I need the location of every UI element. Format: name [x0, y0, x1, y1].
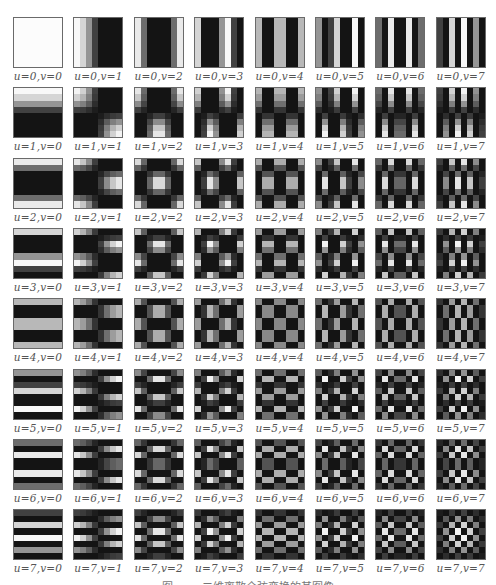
basis-image [315, 17, 365, 68]
basis-image [13, 17, 63, 68]
basis-image [375, 17, 425, 68]
basis-image [375, 298, 425, 349]
basis-image [194, 228, 244, 279]
basis-label: u=2,v=2 [129, 211, 189, 223]
basis-label: u=2,v=3 [189, 211, 249, 223]
basis-image [73, 228, 123, 279]
basis-label: u=7,v=7 [431, 562, 491, 574]
basis-label: u=6,v=6 [370, 492, 430, 504]
basis-label: u=0,v=7 [431, 70, 491, 82]
basis-image [315, 439, 365, 490]
basis-image [13, 228, 63, 279]
basis-image [13, 439, 63, 490]
basis-image [73, 509, 123, 560]
basis-label: u=5,v=5 [310, 422, 370, 434]
basis-image [255, 439, 305, 490]
basis-label: u=1,v=6 [370, 140, 430, 152]
basis-label: u=6,v=1 [68, 492, 128, 504]
basis-image [13, 298, 63, 349]
basis-label: u=3,v=0 [8, 281, 68, 293]
basis-label: u=4,v=4 [250, 351, 310, 363]
basis-image [13, 87, 63, 138]
basis-image [436, 158, 486, 209]
basis-image [134, 439, 184, 490]
basis-label: u=1,v=2 [129, 140, 189, 152]
basis-image [134, 369, 184, 420]
basis-image [194, 17, 244, 68]
basis-image [436, 298, 486, 349]
basis-label: u=3,v=2 [129, 281, 189, 293]
basis-label: u=3,v=7 [431, 281, 491, 293]
basis-image [375, 87, 425, 138]
basis-label: u=2,v=6 [370, 211, 430, 223]
basis-label: u=4,v=5 [310, 351, 370, 363]
basis-label: u=0,v=1 [68, 70, 128, 82]
basis-image [73, 158, 123, 209]
basis-label: u=6,v=4 [250, 492, 310, 504]
basis-image [375, 439, 425, 490]
basis-label: u=5,v=7 [431, 422, 491, 434]
basis-label: u=5,v=6 [370, 422, 430, 434]
basis-label: u=0,v=5 [310, 70, 370, 82]
basis-image [73, 298, 123, 349]
basis-label: u=5,v=0 [8, 422, 68, 434]
basis-label: u=5,v=4 [250, 422, 310, 434]
basis-label: u=1,v=7 [431, 140, 491, 152]
basis-image [134, 17, 184, 68]
basis-label: u=6,v=5 [310, 492, 370, 504]
basis-label: u=4,v=6 [370, 351, 430, 363]
basis-image [73, 439, 123, 490]
basis-label: u=7,v=1 [68, 562, 128, 574]
basis-label: u=4,v=1 [68, 351, 128, 363]
basis-label: u=3,v=4 [250, 281, 310, 293]
basis-image [375, 509, 425, 560]
basis-image [73, 369, 123, 420]
basis-label: u=6,v=2 [129, 492, 189, 504]
basis-label: u=5,v=2 [129, 422, 189, 434]
basis-image [255, 17, 305, 68]
basis-label: u=7,v=2 [129, 562, 189, 574]
basis-label: u=1,v=1 [68, 140, 128, 152]
basis-image [194, 369, 244, 420]
basis-image [194, 158, 244, 209]
basis-image [73, 87, 123, 138]
basis-image [134, 509, 184, 560]
basis-label: u=0,v=6 [370, 70, 430, 82]
basis-image [255, 87, 305, 138]
basis-image [255, 228, 305, 279]
basis-image [194, 87, 244, 138]
basis-image [134, 298, 184, 349]
basis-image [13, 158, 63, 209]
basis-image [436, 228, 486, 279]
basis-label: u=7,v=0 [8, 562, 68, 574]
basis-image [13, 369, 63, 420]
basis-label: u=6,v=3 [189, 492, 249, 504]
basis-label: u=3,v=5 [310, 281, 370, 293]
basis-image [194, 298, 244, 349]
basis-image [255, 158, 305, 209]
basis-label: u=7,v=3 [189, 562, 249, 574]
basis-image [134, 87, 184, 138]
basis-label: u=7,v=4 [250, 562, 310, 574]
basis-label: u=1,v=0 [8, 140, 68, 152]
basis-label: u=2,v=1 [68, 211, 128, 223]
basis-label: u=6,v=7 [431, 492, 491, 504]
basis-label: u=5,v=1 [68, 422, 128, 434]
basis-image [134, 228, 184, 279]
figure-caption: 图 …… 二维离散余弦变换的基图像 [0, 578, 496, 585]
basis-label: u=1,v=3 [189, 140, 249, 152]
basis-label: u=2,v=0 [8, 211, 68, 223]
basis-label: u=0,v=3 [189, 70, 249, 82]
basis-image [134, 158, 184, 209]
basis-label: u=2,v=4 [250, 211, 310, 223]
basis-image [436, 439, 486, 490]
basis-label: u=0,v=4 [250, 70, 310, 82]
basis-label: u=4,v=2 [129, 351, 189, 363]
basis-label: u=3,v=6 [370, 281, 430, 293]
basis-image [73, 17, 123, 68]
basis-image [436, 17, 486, 68]
basis-image [315, 298, 365, 349]
basis-image [315, 87, 365, 138]
basis-label: u=6,v=0 [8, 492, 68, 504]
basis-image [255, 298, 305, 349]
